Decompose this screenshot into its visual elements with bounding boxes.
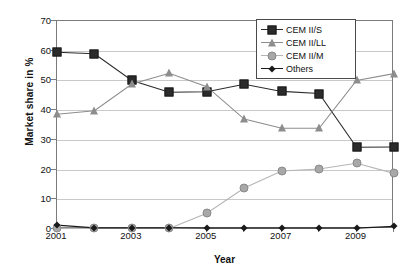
legend-marker-square-icon xyxy=(261,24,283,35)
legend-item-cem-ii-ll[interactable]: CEM II/LL xyxy=(261,36,351,49)
data-point-marker xyxy=(352,143,361,152)
legend-label: CEM II/LL xyxy=(286,38,326,48)
series-line xyxy=(57,225,394,228)
data-point-marker xyxy=(277,167,286,176)
data-point-marker xyxy=(240,80,249,89)
y-tick-label: 30 xyxy=(0,133,56,144)
data-point-marker xyxy=(90,49,99,58)
data-point-marker xyxy=(277,87,286,96)
legend-label: Others xyxy=(286,64,313,74)
y-tick-label: 10 xyxy=(0,193,56,204)
data-point-marker xyxy=(240,115,248,123)
y-tick-label: 70 xyxy=(0,15,56,26)
y-tick-label: 20 xyxy=(0,163,56,174)
legend-label: CEM II/S xyxy=(286,25,322,35)
legend-item-cem-ii-m[interactable]: CEM II/M xyxy=(261,49,351,62)
data-point-marker xyxy=(165,88,174,97)
legend-marker-triangle-icon xyxy=(261,37,283,48)
legend-marker-diamond-icon xyxy=(261,63,283,74)
legend-item-cem-ii-s[interactable]: CEM II/S xyxy=(261,23,351,36)
data-point-marker xyxy=(128,80,136,88)
data-point-marker xyxy=(352,159,361,168)
data-point-marker xyxy=(53,110,61,118)
x-axis-title: Year xyxy=(56,254,393,265)
chart-legend: CEM II/S CEM II/LL CEM II/M Others xyxy=(256,19,356,79)
data-point-marker xyxy=(390,142,399,151)
legend-label: CEM II/M xyxy=(286,51,324,61)
legend-item-others[interactable]: Others xyxy=(261,62,351,75)
data-point-marker xyxy=(53,48,62,57)
data-point-marker xyxy=(390,69,398,77)
data-point-marker xyxy=(240,183,249,192)
y-tick-label: 50 xyxy=(0,74,56,85)
data-point-marker xyxy=(390,169,399,178)
data-point-marker xyxy=(90,106,98,114)
chart-figure: Market share in % 010203040506070 200120… xyxy=(0,0,411,275)
series-line xyxy=(57,73,394,128)
y-tick-label: 60 xyxy=(0,44,56,55)
y-tick-label: 40 xyxy=(0,104,56,115)
data-point-marker xyxy=(315,164,324,173)
data-point-marker xyxy=(165,69,173,77)
data-point-marker xyxy=(315,124,323,132)
series-line xyxy=(57,163,394,228)
data-point-marker xyxy=(202,209,211,218)
legend-marker-circle-icon xyxy=(261,50,283,61)
data-point-marker xyxy=(278,124,286,132)
data-point-marker xyxy=(315,89,324,98)
data-point-marker xyxy=(203,82,211,90)
